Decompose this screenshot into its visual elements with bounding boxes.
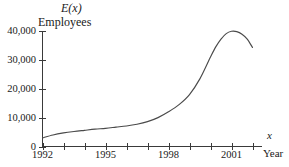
data-curve-employees	[43, 31, 253, 138]
chart-container: E(x) Employees 010,00020,00030,00040,000…	[0, 0, 289, 167]
plot-area	[0, 0, 289, 167]
